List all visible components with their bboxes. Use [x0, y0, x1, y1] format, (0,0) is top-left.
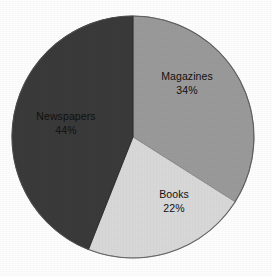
pie-label-newspapers: Newspapers 44% — [16, 110, 116, 137]
pie-label-books-name: Books — [136, 188, 212, 202]
pie-chart-svg — [0, 0, 272, 276]
pie-label-magazines-value: 34% — [139, 84, 235, 98]
pie-label-newspapers-name: Newspapers — [16, 110, 116, 124]
pie-label-books: Books 22% — [136, 188, 212, 215]
pie-label-newspapers-value: 44% — [16, 124, 116, 138]
pie-label-magazines: Magazines 34% — [139, 70, 235, 97]
pie-chart-figure: Magazines 34% Newspapers 44% Books 22% — [0, 0, 272, 276]
pie-label-magazines-name: Magazines — [139, 70, 235, 84]
pie-label-books-value: 22% — [136, 202, 212, 216]
